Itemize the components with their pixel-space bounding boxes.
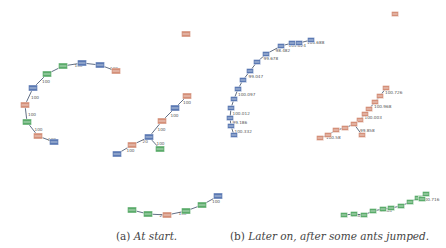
panel-b: 104.688101.62498.48299.67899.047100.0971… xyxy=(227,12,440,218)
ant-graph-diagram: 1001001001001001001001001001001002010020… xyxy=(0,0,446,248)
edge-label: 100.097 xyxy=(238,92,256,97)
edge-label: 100 xyxy=(158,127,166,132)
caption-a: (a) At start. xyxy=(116,230,177,242)
edge-label: 100 xyxy=(212,199,220,204)
edge-label: 100 xyxy=(35,127,43,132)
caption-a-text: At start. xyxy=(134,230,177,242)
caption-a-prefix: (a) xyxy=(116,230,130,242)
panel-a: 1001001001001001001001001001001002010020… xyxy=(21,31,223,218)
edge-label: 100.726 xyxy=(385,90,403,95)
edge-label: 99.858 xyxy=(360,128,375,133)
edge-label: 100 xyxy=(171,113,179,118)
caption-b-prefix: (b) xyxy=(230,230,245,242)
edge-label: 100.012 xyxy=(233,111,251,116)
figure: 1001001001001001001001001001001002010020… xyxy=(0,0,446,248)
caption-b: (b) Later on, after some ants jumped. xyxy=(230,230,429,242)
caption-b-text: Later on, after some ants jumped. xyxy=(248,230,429,242)
edge-label: 100 xyxy=(31,95,39,100)
edge-label: 99.678 xyxy=(264,56,279,61)
edge-label: 100 xyxy=(28,112,36,117)
edge-label: 100 xyxy=(183,100,191,105)
edge-label: 100 xyxy=(127,148,135,153)
edge-label: 99.047 xyxy=(249,74,264,79)
edge-label: 100 xyxy=(157,141,165,146)
edge-label: 98.482 xyxy=(276,48,291,53)
edge-label: 100 xyxy=(42,79,50,84)
edge-label: 99.186 xyxy=(233,120,248,125)
